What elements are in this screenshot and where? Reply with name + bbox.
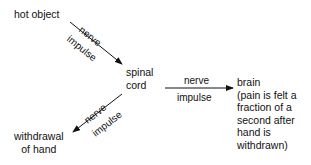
brain-line-4: second after — [237, 114, 297, 127]
spinal-line-1: spinal — [126, 66, 153, 79]
edge2-label-top: nerve — [184, 75, 209, 86]
node-withdrawal: withdrawal of hand — [14, 130, 64, 155]
withdrawal-line-2: of hand — [14, 143, 64, 156]
node-hot-object: hot object — [14, 8, 60, 21]
brain-line-6: withdrawn) — [237, 139, 297, 152]
node-spinal-cord: spinal cord — [126, 66, 153, 91]
spinal-line-2: cord — [126, 79, 153, 92]
brain-line-1: brain — [237, 76, 297, 89]
edge2-label-bottom: impulse — [177, 92, 211, 103]
brain-line-3: fraction of a — [237, 101, 297, 114]
node-brain: brain (pain is felt a fraction of a seco… — [237, 76, 297, 151]
brain-line-2: (pain is felt a — [237, 89, 297, 102]
withdrawal-line-1: withdrawal — [14, 130, 64, 143]
brain-line-5: hand is — [237, 126, 297, 139]
